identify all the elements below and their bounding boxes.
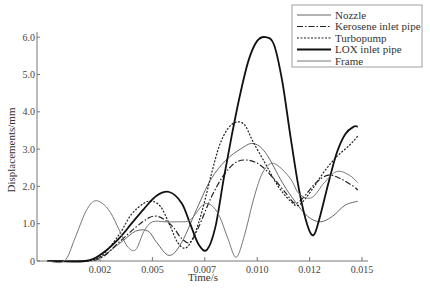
x-tick-label: 0.002 <box>89 264 112 275</box>
x-axis-title: Time/s <box>188 271 218 283</box>
y-tick-label: 1.0 <box>23 218 36 229</box>
series-line-frame <box>48 163 358 262</box>
x-ticks: 0.0020.0050.0070.0100.0120.015 <box>89 257 374 275</box>
y-tick-label: 0 <box>30 256 35 267</box>
y-tick-label: 4.0 <box>23 106 36 117</box>
displacement-chart: 01.02.03.04.05.06.0 0.0020.0050.0070.010… <box>0 0 430 297</box>
y-tick-label: 2.0 <box>23 181 36 192</box>
y-tick-label: 5.0 <box>23 69 36 80</box>
legend-label-nozzle: Nozzle <box>335 9 366 21</box>
legend-label-frame: Frame <box>335 55 363 67</box>
series-line-kerosene-inlet-pipe <box>48 160 358 261</box>
legend-label-kerosene-inlet-pipe: Kerosene inlet pipe <box>335 20 421 32</box>
y-axis-title: Displacements/mm <box>5 107 17 192</box>
x-tick-label: 0.010 <box>246 264 269 275</box>
series-layer <box>48 37 358 263</box>
legend-label-lox-inlet-pipe: LOX inlet pipe <box>335 43 402 55</box>
x-tick-label: 0.012 <box>298 264 321 275</box>
legend: NozzleKerosene inlet pipeTurbopumpLOX in… <box>292 5 422 67</box>
series-line-nozzle <box>48 143 358 261</box>
y-tick-label: 3.0 <box>23 144 36 155</box>
series-line-turbopump <box>48 122 358 262</box>
y-tick-label: 6.0 <box>23 32 36 43</box>
x-tick-label: 0.015 <box>351 264 374 275</box>
series-line-lox-inlet-pipe <box>48 37 358 262</box>
legend-label-turbopump: Turbopump <box>335 32 387 44</box>
x-tick-label: 0.005 <box>141 264 164 275</box>
